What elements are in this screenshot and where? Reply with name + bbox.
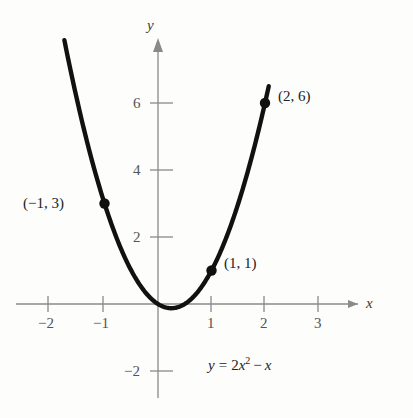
y-tick-marks xyxy=(150,103,173,371)
point-label-neg1-3: (−1, 3) xyxy=(23,196,64,211)
y-axis-label: y xyxy=(147,18,154,33)
point-marker-2-6[interactable] xyxy=(260,98,270,108)
equation-lhs: y xyxy=(208,357,215,373)
y-tick-label-neg2: −2 xyxy=(124,364,140,379)
x-tick-label-neg2: −2 xyxy=(38,316,54,331)
x-tick-label-2: 2 xyxy=(260,316,268,331)
x-tick-label-1: 1 xyxy=(207,316,215,331)
y-tick-label-4: 4 xyxy=(133,163,141,178)
point-label-1-1: (1, 1) xyxy=(224,256,257,271)
equation-minus: − xyxy=(253,357,261,373)
point-marker-1-1[interactable] xyxy=(206,265,216,275)
y-axis xyxy=(153,38,163,398)
equation-equals: = xyxy=(219,357,227,373)
equation-coefficient: 2 xyxy=(231,357,239,373)
y-tick-label-6: 6 xyxy=(133,96,141,111)
x-axis-label: x xyxy=(366,296,373,311)
point-marker-neg1-3[interactable] xyxy=(99,198,109,208)
graph-figure: y x −2 −1 1 2 3 6 4 2 −2 (−1, 3) (1, 1) … xyxy=(0,0,413,418)
equation-exponent: 2 xyxy=(245,355,250,366)
equation-variable-2: x xyxy=(265,357,272,373)
x-tick-label-3: 3 xyxy=(314,316,322,331)
equation-label: y=2x2−x xyxy=(208,358,271,373)
y-tick-label-2: 2 xyxy=(133,230,141,245)
x-tick-label-neg1: −1 xyxy=(93,316,109,331)
point-label-2-6: (2, 6) xyxy=(278,89,311,104)
